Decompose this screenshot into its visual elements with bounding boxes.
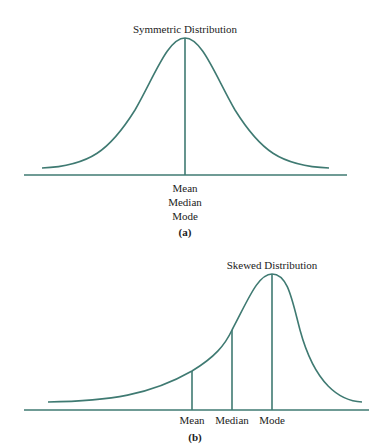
skewed-label-median: Median [207,413,257,427]
skewed-curve [48,274,362,402]
symmetric-label-mean: Mean [155,181,215,195]
caption-a: (a) [165,225,205,239]
symmetric-title: Symmetric Distribution [125,22,245,36]
skewed-label-mean: Mean [172,413,212,427]
symmetric-distribution-figure [24,38,347,175]
symmetric-label-median: Median [155,195,215,209]
symmetric-label-mode: Mode [155,209,215,223]
skewed-label-mode: Mode [252,413,292,427]
caption-b: (b) [175,430,215,444]
skewed-title: Skewed Distribution [217,258,327,272]
skewed-distribution-figure [24,274,369,410]
